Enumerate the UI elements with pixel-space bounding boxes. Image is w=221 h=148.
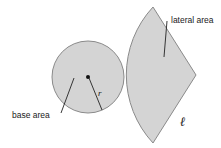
lateral-area-label: lateral area <box>171 15 214 25</box>
radius-label: r <box>98 88 102 98</box>
cone-net-diagram: base area r lateral area ℓ <box>0 0 221 148</box>
base-area-label: base area <box>12 110 50 120</box>
slant-height-label: ℓ <box>180 114 186 129</box>
